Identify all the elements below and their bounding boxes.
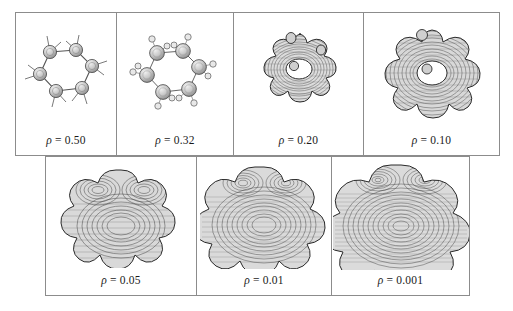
caption-rho-020: ρ = 0.20 [234,135,363,156]
rho-symbol: ρ [378,274,384,286]
caption-rho-001: ρ = 0.01 [197,275,331,296]
rho-symbol: ρ [279,134,285,146]
caption-rho-010: ρ = 0.10 [364,135,499,156]
panel-rho-020[interactable]: ρ = 0.20 [233,13,363,155]
panel-rho-010[interactable]: ρ = 0.10 [363,13,499,155]
isosurface-rho-050 [16,13,116,135]
panel-rho-005[interactable]: ρ = 0.05 [46,157,196,295]
caption-rho-0001: ρ = 0.001 [332,275,469,296]
rho-value: = 0.001 [387,274,424,286]
rho-value: = 0.01 [253,274,284,286]
rho-symbol: ρ [101,274,107,286]
isosurface-rho-0001 [332,157,469,275]
rho-value: = 0.05 [110,274,141,286]
rho-value: = 0.32 [164,134,195,146]
rho-symbol: ρ [244,274,250,286]
panel-rho-001[interactable]: ρ = 0.01 [196,157,331,295]
panel-row-bottom: ρ = 0.05 [45,156,470,296]
isosurface-rho-001 [197,157,331,275]
rho-symbol: ρ [412,134,418,146]
electron-density-isosurface-figure: ρ = 0.50 [0,0,513,311]
panel-rho-050[interactable]: ρ = 0.50 [16,13,116,155]
rho-symbol: ρ [46,134,52,146]
rho-value: = 0.10 [421,134,452,146]
isosurface-rho-010 [364,13,499,135]
isosurface-rho-032 [117,13,233,135]
caption-rho-032: ρ = 0.32 [117,135,233,156]
rho-value: = 0.50 [55,134,86,146]
caption-rho-005: ρ = 0.05 [46,275,196,296]
isosurface-rho-005 [46,157,196,275]
isosurface-rho-020 [234,13,363,135]
rho-value: = 0.20 [288,134,319,146]
panel-rho-0001[interactable]: ρ = 0.001 [331,157,469,295]
caption-rho-050: ρ = 0.50 [16,135,116,156]
panel-row-top: ρ = 0.50 [15,12,500,156]
panel-rho-032[interactable]: ρ = 0.32 [116,13,233,155]
rho-symbol: ρ [155,134,161,146]
